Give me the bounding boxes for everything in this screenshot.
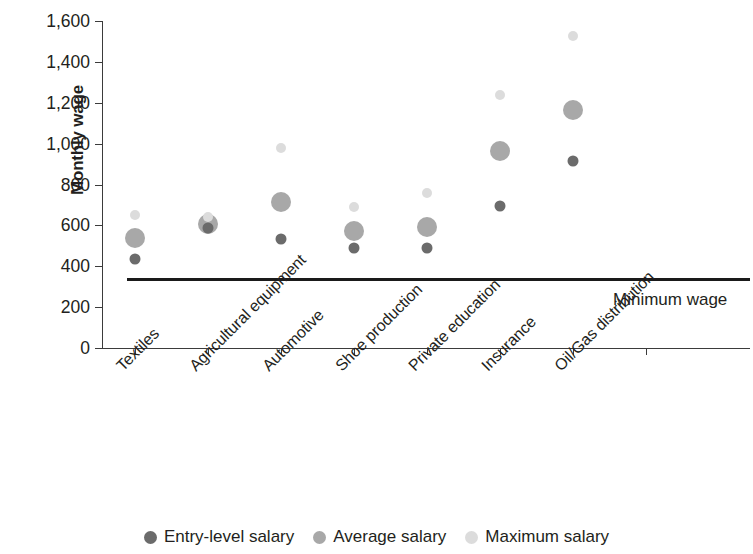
y-tick-mark [95,21,102,22]
y-tick-label: 600 [28,216,90,234]
legend-label: Maximum salary [485,527,609,547]
y-tick-label: 800 [28,176,90,194]
data-point [203,212,213,222]
data-point [563,100,583,120]
x-category-label: Insurance [478,313,540,375]
legend-label: Entry-level salary [164,527,294,547]
x-category-label: Agricultural equipment [186,251,310,375]
legend-swatch-circle-icon [144,531,157,544]
data-point [130,210,140,220]
data-point [130,254,141,265]
y-tick-mark [95,144,102,145]
data-point [568,31,578,41]
data-point [568,155,579,166]
data-point [495,200,506,211]
legend-item[interactable]: Maximum salary [465,527,609,547]
data-point [344,221,364,241]
x-category-label: Automotive [259,306,328,375]
y-tick-mark [95,103,102,104]
data-point [125,228,145,248]
x-category-label: Textiles [113,325,163,375]
y-axis-line [102,21,103,349]
y-tick-mark [95,307,102,308]
y-tick-label: 1,400 [28,53,90,71]
x-tick-mark [646,348,647,355]
legend-swatch-circle-icon [465,531,478,544]
legend-swatch-circle-icon [313,531,326,544]
data-point [349,202,359,212]
y-tick-label: 400 [28,257,90,275]
data-point [203,223,214,234]
data-point [271,192,291,212]
y-tick-mark [95,225,102,226]
chart-legend: Entry-level salaryAverage salaryMaximum … [0,527,753,547]
legend-label: Average salary [333,527,446,547]
data-point [490,141,510,161]
y-tick-mark [95,185,102,186]
y-tick-label: 1,000 [28,135,90,153]
salary-scatter-chart: Monthly wage 02004006008001,0001,2001,40… [0,0,753,554]
data-point [276,233,287,244]
y-tick-mark [95,266,102,267]
data-point [495,90,505,100]
y-tick-label: 1,600 [28,12,90,30]
data-point [417,217,437,237]
y-tick-label: 1,200 [28,94,90,112]
data-point [422,188,432,198]
y-tick-label: 0 [28,339,90,357]
data-point [422,242,433,253]
y-tick-mark [95,348,102,349]
data-point [349,242,360,253]
y-tick-label: 200 [28,298,90,316]
legend-item[interactable]: Average salary [313,527,446,547]
data-point [276,143,286,153]
x-category-label: Oil/Gas distribution [551,268,658,375]
legend-item[interactable]: Entry-level salary [144,527,294,547]
y-tick-mark [95,62,102,63]
